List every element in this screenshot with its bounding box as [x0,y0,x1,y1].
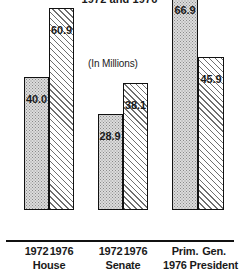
value-label-senate-1972: 28.9 [97,130,123,142]
value-label-house-1976: 60.9 [49,24,74,36]
value-label-president-gen: 45.9 [198,73,224,85]
value-label-senate-1976: 38.1 [123,99,148,111]
plot-area: 40.0 60.9 28.9 38.1 66.9 45.9 (In Millio… [0,0,239,242]
bar-chart: 1972 and 1976 40.0 60.9 28.9 38.1 66.9 4… [0,0,239,273]
value-label-president-prim: 66.9 [172,4,198,16]
units-annotation: (In Millions) [88,58,138,69]
group-label-president: 1976 President [162,259,239,271]
tick-label-senate-1976: 1976 [121,245,150,257]
value-label-house-1972: 40.0 [24,93,49,105]
x-axis-baseline [6,240,234,242]
tick-label-president-prim: Prim. [170,245,200,257]
bar-house-1976 [49,8,74,210]
group-label-senate: Senate [98,259,148,271]
tick-label-president-gen: Gen. [199,245,229,257]
bar-president-prim [172,0,198,210]
tick-label-house-1976: 1976 [47,245,76,257]
group-label-house: House [24,259,74,271]
bar-senate-1972 [98,114,123,210]
